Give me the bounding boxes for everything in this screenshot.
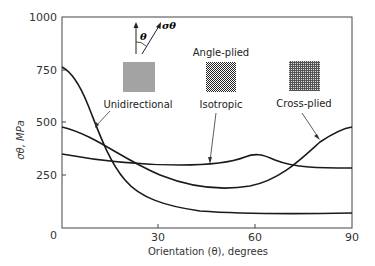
x-tick-90: 90 (345, 231, 359, 244)
y-tick-750: 750 (36, 64, 57, 77)
y-tick-250: 250 (36, 169, 57, 182)
curve-cross-plied (62, 127, 352, 188)
label-unidirectional: Unidirectional (103, 99, 172, 110)
y-axis-title: σθ, MPa (15, 120, 26, 160)
isotropic-pattern-icon (206, 62, 236, 92)
y-ticks (62, 70, 66, 175)
unidirectional-pattern-icon (123, 62, 155, 92)
label-angle-plied: Angle-plied (193, 47, 249, 58)
x-tick-30: 30 (151, 231, 165, 244)
x-ticks (158, 224, 255, 228)
y-tick-500: 500 (36, 116, 57, 129)
theta-symbol: θ (140, 31, 147, 42)
chart: 1000 750 500 250 0 30 60 90 Orientation … (0, 0, 375, 266)
label-isotropic: Isotropic (200, 99, 243, 110)
x-tick-60: 60 (248, 231, 262, 244)
sigma-theta-symbol: σθ (162, 20, 176, 31)
y-tick-1000: 1000 (29, 11, 57, 24)
curve-isotropic (62, 154, 352, 168)
x-axis-title: Orientation (θ), degrees (148, 246, 268, 257)
leader-lines (95, 111, 320, 164)
cross-plied-pattern-icon (289, 61, 320, 91)
label-cross-plied: Cross-plied (276, 98, 331, 109)
orientation-diagram: θ σθ (134, 20, 177, 54)
y-tick-0: 0 (50, 229, 57, 242)
